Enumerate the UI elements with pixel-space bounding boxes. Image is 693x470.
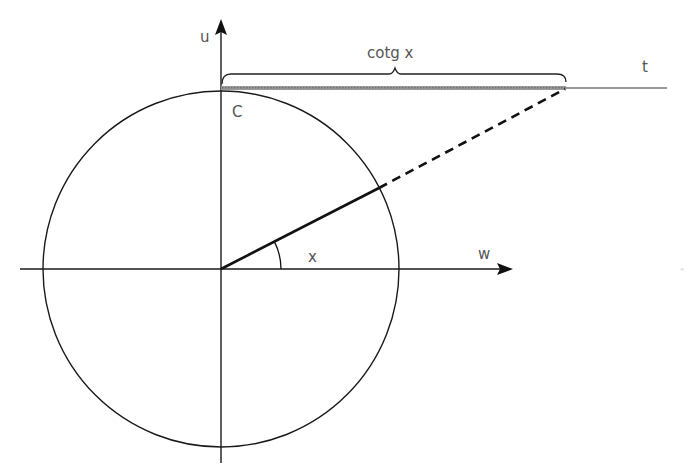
brace bbox=[222, 68, 566, 84]
stray-mark: ≈ bbox=[680, 266, 684, 272]
vertical-axis-label: u bbox=[200, 28, 210, 46]
point-c-label: C bbox=[232, 103, 242, 121]
angle-arc bbox=[274, 242, 281, 269]
brace-label: cotg x bbox=[367, 44, 414, 62]
horizontal-axis-label: w bbox=[478, 245, 490, 263]
cotangent-segment bbox=[221, 86, 566, 90]
dashed-extension bbox=[379, 89, 565, 188]
radius-line bbox=[221, 188, 379, 269]
tangent-line-label: t bbox=[642, 58, 648, 76]
angle-label: x bbox=[308, 248, 317, 266]
unit-circle-diagram: u w t C x cotg x ≈ bbox=[0, 0, 693, 470]
